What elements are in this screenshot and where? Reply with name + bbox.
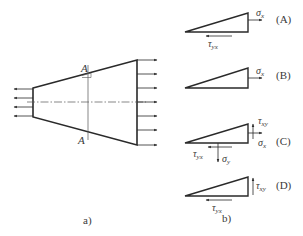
option-label-d: (D) — [276, 179, 292, 192]
caption-a: a) — [83, 214, 92, 227]
left-load-arrows — [14, 89, 33, 116]
tau-yx-label: τyx — [193, 148, 204, 161]
triangle-element — [185, 124, 248, 143]
tau-yx-label: τyx — [208, 38, 219, 51]
option-label-b: (B) — [276, 69, 291, 82]
option-b: σx (B) — [185, 65, 291, 88]
right-load-arrows — [137, 60, 157, 145]
option-a: σx τyx (A) — [185, 7, 292, 51]
sigma-y-label: σy — [222, 153, 231, 166]
section-label-bottom: A — [77, 134, 85, 146]
option-c: τxy σx τyx σy (C) — [185, 115, 291, 166]
tau-xy-label: τxy — [258, 115, 269, 128]
triangle-element — [185, 177, 248, 196]
triangle-element — [185, 68, 248, 88]
stress-diagram-figure: A A a) σx — [0, 0, 303, 236]
option-label-a: (A) — [276, 13, 292, 26]
triangle-element — [185, 13, 248, 32]
caption-b: b) — [222, 212, 232, 225]
sigma-x-label: σx — [256, 65, 265, 78]
part-b-options: σx τyx (A) σx (B) τxy σx — [185, 7, 292, 225]
option-label-c: (C) — [276, 135, 291, 148]
tau-xy-label: τxy — [256, 180, 267, 193]
sigma-x-label: σx — [256, 7, 265, 20]
option-d: τxy τyx (D) — [185, 177, 292, 215]
section-label-top: A — [80, 62, 88, 74]
part-a-trapezoid-diagram: A A a) — [14, 60, 157, 227]
sigma-x-label: σx — [258, 137, 267, 150]
